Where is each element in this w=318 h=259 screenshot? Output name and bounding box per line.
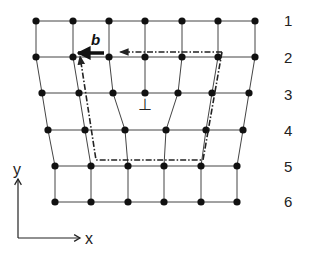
row-label-6: 6 bbox=[284, 193, 292, 210]
y-axis-label: y bbox=[13, 161, 21, 178]
atom-node bbox=[197, 162, 204, 169]
atom-node bbox=[124, 198, 131, 205]
atom-node bbox=[178, 53, 185, 60]
dislocation-diagram: b ⊥ 1 2 3 4 5 6 y x bbox=[0, 0, 318, 259]
atom-node bbox=[38, 89, 45, 96]
lattice-bond bbox=[42, 93, 48, 130]
atom-node bbox=[87, 162, 94, 169]
atom-node bbox=[44, 126, 51, 133]
atom-node bbox=[87, 198, 94, 205]
lattice-bond bbox=[73, 57, 79, 93]
atom-node bbox=[233, 162, 240, 169]
atom-node bbox=[51, 198, 58, 205]
atom-node bbox=[174, 89, 181, 96]
atom-node bbox=[81, 126, 88, 133]
atom-node bbox=[251, 17, 258, 24]
atom-node bbox=[105, 17, 112, 24]
atom-node bbox=[178, 17, 185, 24]
row-label-2: 2 bbox=[284, 49, 292, 66]
atom-node bbox=[32, 17, 39, 24]
atom-node bbox=[162, 126, 169, 133]
row-label-3: 3 bbox=[284, 86, 292, 103]
atom-node bbox=[251, 53, 258, 60]
lattice-bond bbox=[243, 93, 249, 130]
atom-node bbox=[51, 162, 58, 169]
lattice-bond bbox=[85, 130, 91, 166]
atom-node bbox=[214, 17, 221, 24]
atom-node bbox=[121, 126, 128, 133]
atom-node bbox=[32, 53, 39, 60]
lattice-bond bbox=[237, 130, 243, 166]
lattice-bond bbox=[36, 57, 42, 93]
atom-node bbox=[124, 162, 131, 169]
atom-node bbox=[160, 162, 167, 169]
atom-node bbox=[197, 198, 204, 205]
row-label-4: 4 bbox=[284, 122, 292, 139]
atom-node bbox=[239, 126, 246, 133]
atom-node bbox=[233, 198, 240, 205]
lattice-bond bbox=[113, 93, 125, 130]
lattice-bond bbox=[178, 57, 182, 93]
lattice-bond bbox=[249, 57, 255, 93]
lattice-bond bbox=[166, 93, 178, 130]
dislocation-symbol: ⊥ bbox=[138, 96, 152, 113]
x-axis-label: x bbox=[85, 230, 93, 247]
atom-node bbox=[141, 53, 148, 60]
atom-node bbox=[160, 198, 167, 205]
atom-node bbox=[105, 53, 112, 60]
atom-node bbox=[75, 89, 82, 96]
row-label-1: 1 bbox=[284, 12, 292, 29]
atom-node bbox=[69, 53, 76, 60]
row-label-5: 5 bbox=[284, 158, 292, 175]
lattice-bond bbox=[109, 57, 113, 93]
atom-node bbox=[69, 17, 76, 24]
lattice-bond bbox=[79, 93, 85, 130]
atom-node bbox=[141, 17, 148, 24]
burgers-vector-label: b bbox=[91, 31, 100, 48]
atom-node bbox=[245, 89, 252, 96]
row-labels: 1 2 3 4 5 6 bbox=[284, 12, 292, 210]
atom-node bbox=[109, 89, 116, 96]
lattice-bond bbox=[48, 130, 55, 166]
